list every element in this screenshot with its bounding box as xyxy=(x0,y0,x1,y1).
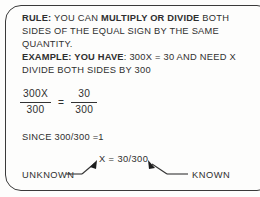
fraction-equation: 300X 300 = 30 300 xyxy=(20,88,97,116)
worksheet-page: RULE: YOU CAN MULTIPLY OR DIVIDE BOTH SI… xyxy=(0,0,260,197)
rule-heading: RULE: xyxy=(22,13,51,23)
right-numerator: 30 xyxy=(75,88,93,102)
example-instruction: DIVIDE BOTH SIDES BY 300 xyxy=(22,65,151,75)
since-line: SINCE 300/300 =1 xyxy=(22,131,104,144)
equals-sign: = xyxy=(58,97,64,108)
example-paragraph: EXAMPLE: YOU HAVE: 300X = 30 AND NEED X … xyxy=(22,51,254,77)
unknown-label: UNKNOWN xyxy=(22,170,75,180)
left-numerator: 300X xyxy=(20,88,51,102)
example-lead: YOU HAVE xyxy=(72,52,124,62)
example-heading: EXAMPLE: xyxy=(22,52,72,62)
known-label: KNOWN xyxy=(192,170,230,180)
right-denominator: 300 xyxy=(72,103,96,117)
left-denominator: 300 xyxy=(24,103,48,117)
answer-expression: X = 30/300 xyxy=(99,154,148,164)
rule-emphasis: MULTIPLY OR DIVIDE xyxy=(101,13,199,23)
rule-text-before: YOU CAN xyxy=(51,13,101,23)
left-fraction: 300X 300 xyxy=(20,88,51,116)
rule-paragraph: RULE: YOU CAN MULTIPLY OR DIVIDE BOTH SI… xyxy=(22,12,254,52)
right-fraction: 30 300 xyxy=(71,88,97,116)
example-statement: : 300X = 30 AND NEED X xyxy=(124,52,236,62)
